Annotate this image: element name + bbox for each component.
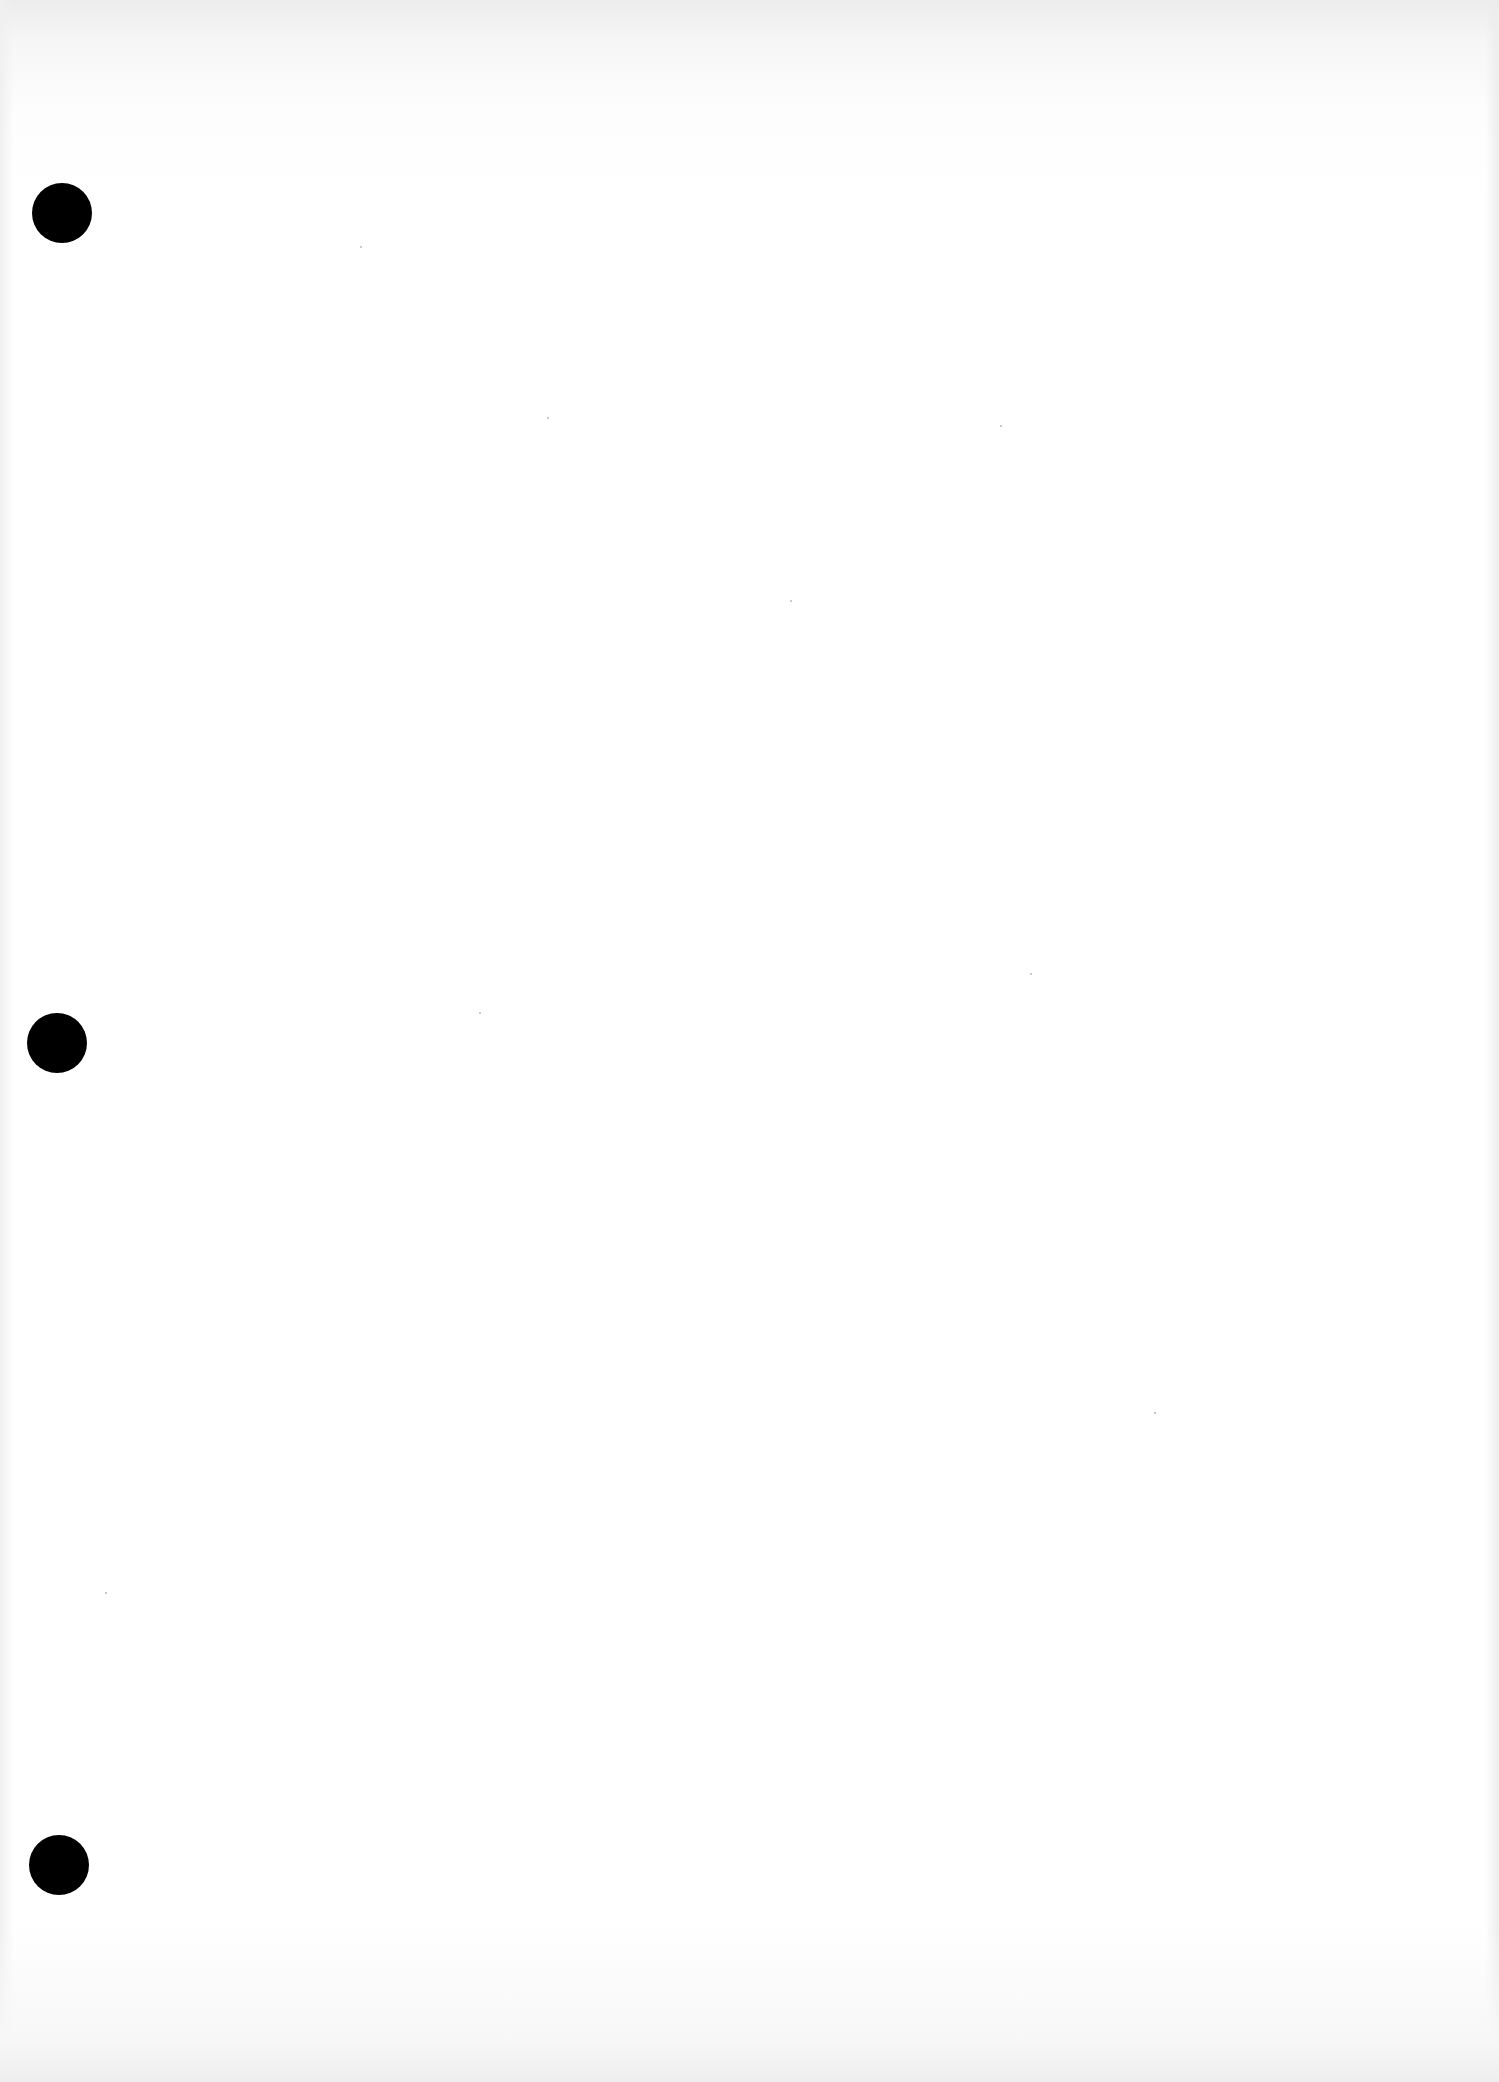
- page-edge-right: [1485, 0, 1499, 2082]
- scan-speck: [547, 417, 549, 419]
- scan-speck: [360, 246, 362, 248]
- page-edge-left: [0, 0, 14, 2082]
- punch-hole-middle: [27, 1013, 87, 1073]
- scan-speck: [1030, 973, 1032, 975]
- scan-speck: [1154, 1412, 1156, 1414]
- scan-speck: [479, 1012, 481, 1014]
- punch-hole-top: [32, 183, 92, 243]
- punch-hole-bottom: [29, 1835, 89, 1895]
- scan-speck: [790, 600, 792, 602]
- scan-speck: [105, 1592, 107, 1594]
- scan-speck: [1000, 425, 1002, 427]
- blank-page: [0, 0, 1499, 2082]
